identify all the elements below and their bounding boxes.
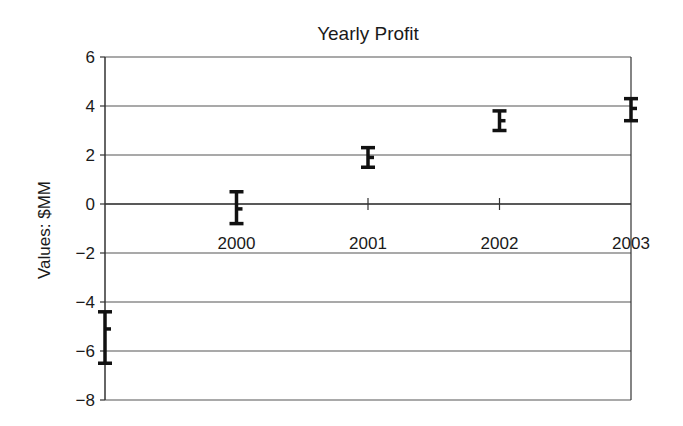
error-bar-point (493, 111, 507, 131)
error-bar-point (361, 148, 375, 168)
gridlines (105, 57, 631, 400)
y-axis-label: Values: $MM (35, 181, 54, 279)
y-tick-label: −8 (76, 391, 95, 410)
y-axis-ticks: 6420−2−4−6−8 (76, 48, 105, 410)
y-tick-label: 2 (86, 146, 95, 165)
x-axis-ticks: 2000200120022003 (218, 198, 650, 253)
y-tick-label: −2 (76, 244, 95, 263)
y-tick-label: −4 (76, 293, 95, 312)
error-bar-point (98, 312, 112, 363)
yearly-profit-chart: Yearly Profit Values: $MM 6420−2−4−6−8 2… (0, 0, 683, 426)
axes (105, 57, 631, 400)
y-tick-label: 0 (86, 195, 95, 214)
x-tick-label: 2000 (218, 234, 256, 253)
error-bar-point (230, 192, 244, 224)
x-tick-label: 2002 (481, 234, 519, 253)
data-points (98, 99, 638, 364)
error-bar-point (624, 99, 638, 121)
x-tick-label: 2001 (349, 234, 387, 253)
y-tick-label: 4 (86, 97, 95, 116)
y-tick-label: −6 (76, 342, 95, 361)
x-tick-label: 2003 (612, 234, 650, 253)
y-tick-label: 6 (86, 48, 95, 67)
chart-title: Yearly Profit (317, 23, 419, 44)
